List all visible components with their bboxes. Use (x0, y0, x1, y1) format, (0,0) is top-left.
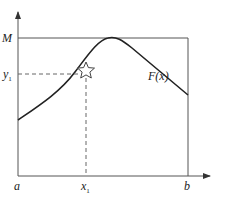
x-left-label: a (14, 179, 20, 193)
x1-label: x1 (80, 179, 90, 195)
diagram-canvas: M y1 F(x) a x1 b (0, 0, 225, 203)
function-label: F(x) (147, 69, 169, 83)
max-label: M (1, 31, 13, 45)
y1-label: y1 (2, 67, 12, 83)
x-right-label: b (184, 179, 190, 193)
